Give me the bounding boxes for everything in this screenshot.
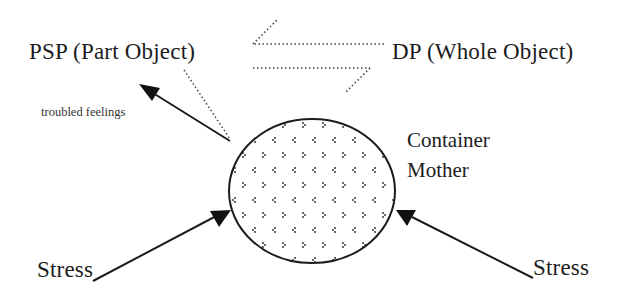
container-mother-node xyxy=(229,119,395,263)
troubled-feelings-label: troubled feelings xyxy=(41,106,125,119)
dotted-arrow-to-dp xyxy=(253,68,370,92)
troubled-feelings-arrow xyxy=(139,84,230,141)
stress-left-arrow xyxy=(93,210,231,281)
dp-label: DP (Whole Object) xyxy=(392,40,573,63)
diagram-canvas: PSP (Part Object) DP (Whole Object) trou… xyxy=(0,0,624,306)
stress-right-label: Stress xyxy=(533,256,589,279)
mother-label: Mother xyxy=(407,160,469,181)
container-label: Container xyxy=(407,130,490,151)
dotted-arrow-to-psp xyxy=(253,20,384,44)
dotted-link-psp-container xyxy=(184,70,230,139)
stress-left-label: Stress xyxy=(37,258,93,281)
psp-label: PSP (Part Object) xyxy=(29,40,195,63)
stress-right-arrow xyxy=(396,210,533,278)
